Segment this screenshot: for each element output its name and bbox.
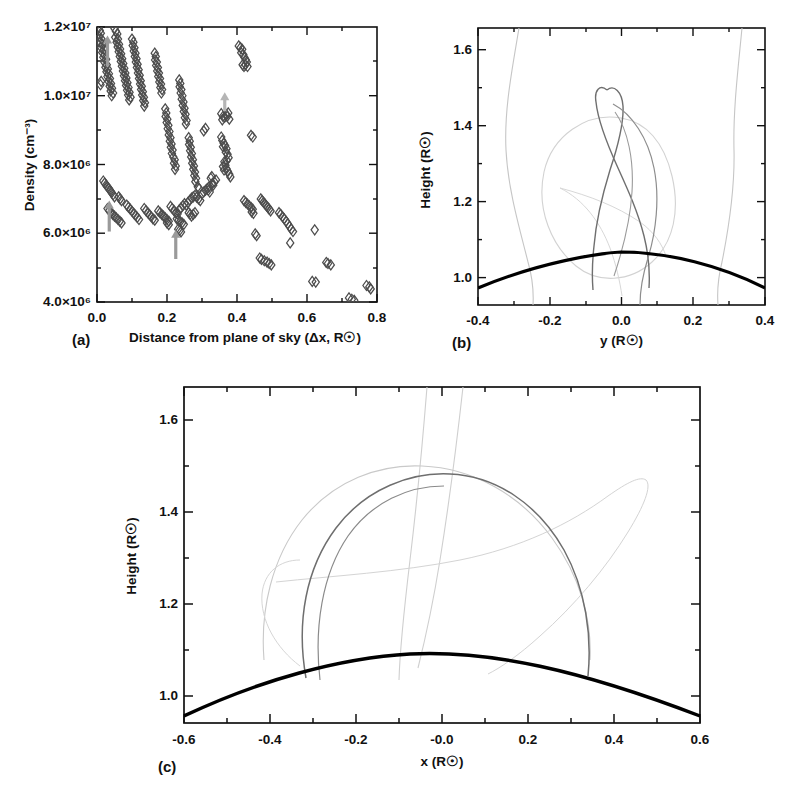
svg-text:1.6: 1.6 [159, 412, 178, 427]
ytick-b-1: 1.2 [453, 193, 472, 208]
xtick-c-4: 0.2 [519, 732, 538, 747]
xtick-a-3: 0.6 [298, 310, 317, 325]
panel-c: 1.0 1.2 1.4 1.6 -0.6 -0.4 -0.2 -0.0 0.2 … [100, 360, 740, 790]
loop-arcade-dark [302, 474, 589, 678]
xtick-c-0: -0.6 [172, 732, 196, 747]
fieldline-vertical-left [399, 387, 427, 680]
loop-arcade-dark-inner [318, 486, 444, 680]
panel-c-xticks [184, 387, 700, 723]
ytick-a-2: 8.0×10⁶ [43, 156, 91, 171]
fieldline-vertical-right [418, 387, 463, 668]
scatter-marker [252, 229, 259, 239]
ytick-a-1: 6.0×10⁶ [43, 225, 91, 240]
svg-text:0.4: 0.4 [605, 732, 624, 747]
panel-a-ylabel: Density (cm⁻³) [22, 119, 37, 212]
fieldline-outer-left [506, 28, 534, 305]
ytick-b-0: 1.0 [453, 269, 472, 284]
ytick-a-3: 1.0×10⁷ [44, 87, 91, 102]
svg-text:0.2: 0.2 [158, 310, 177, 325]
figure-root: 4.0×10⁶ 6.0×10⁶ 8.0×10⁶ 1.0×10⁷ 1.2×10⁷ … [0, 0, 786, 790]
xtick-c-2: -0.2 [344, 732, 367, 747]
solar-limb-b [478, 252, 765, 288]
loop-hook-left [262, 560, 300, 666]
panel-a: 4.0×10⁶ 6.0×10⁶ 8.0×10⁶ 1.0×10⁷ 1.2×10⁷ … [0, 0, 420, 360]
panel-b-xticklabels: -0.4 -0.2 0.0 0.2 0.4 [466, 313, 775, 328]
loop-arcade-wing [276, 479, 648, 674]
svg-text:1.4: 1.4 [453, 117, 472, 132]
panel-c-ylabel: Height (R☉) [124, 517, 139, 595]
panel-a-yticklabels: 4.0×10⁶ 6.0×10⁶ 8.0×10⁶ 1.0×10⁷ 1.2×10⁷ [43, 19, 91, 309]
svg-text:1.2: 1.2 [453, 193, 472, 208]
panel-a-xticklabels: 0.0 0.2 0.4 0.6 0.8 [88, 310, 387, 325]
svg-text:1.4: 1.4 [159, 504, 178, 519]
panel-b-yticklabels: 1.0 1.2 1.4 1.6 [453, 41, 472, 284]
panel-a-scatter-points [95, 23, 374, 305]
svg-text:-0.2: -0.2 [344, 732, 367, 747]
svg-text:-0.6: -0.6 [172, 732, 196, 747]
xtick-b-4: 0.4 [756, 313, 775, 328]
svg-text:1.2: 1.2 [159, 596, 178, 611]
arrow-mid-upper-head [220, 92, 229, 100]
ytick-b-2: 1.4 [453, 117, 472, 132]
panel-b-canvas: 1.0 1.2 1.4 1.6 -0.4 -0.2 0.0 0.2 0.4 He… [400, 0, 786, 360]
panel-c-xlabel: x (R☉) [421, 754, 464, 769]
ytick-c-0: 1.0 [159, 688, 178, 703]
xtick-b-1: -0.2 [538, 313, 561, 328]
panel-b-xlabel: y (R☉) [600, 333, 643, 348]
xtick-c-3: -0.0 [430, 732, 453, 747]
xtick-b-0: -0.4 [466, 313, 490, 328]
fieldline-chord-2 [560, 188, 622, 296]
xtick-b-3: 0.2 [684, 313, 703, 328]
panel-b-label: (b) [452, 334, 471, 351]
panel-c-yticklabels: 1.0 1.2 1.4 1.6 [159, 412, 178, 703]
svg-text:4.0×10⁶: 4.0×10⁶ [43, 294, 91, 309]
svg-text:8.0×10⁶: 8.0×10⁶ [43, 156, 91, 171]
scatter-marker [311, 225, 318, 235]
xtick-b-2: 0.0 [612, 313, 631, 328]
xtick-c-6: 0.6 [691, 732, 710, 747]
panel-c-frame [184, 387, 700, 723]
svg-text:0.0: 0.0 [88, 310, 107, 325]
svg-text:1.6: 1.6 [453, 41, 472, 56]
panel-b-yticks [478, 50, 765, 278]
panel-a-xlabel: Distance from plane of sky (Δx, R☉) [129, 330, 361, 345]
panel-c-label: (c) [158, 758, 176, 775]
xtick-c-5: 0.4 [605, 732, 624, 747]
ytick-c-2: 1.4 [159, 504, 178, 519]
ytick-c-1: 1.2 [159, 596, 178, 611]
svg-text:0.2: 0.2 [519, 732, 538, 747]
svg-text:0.8: 0.8 [368, 310, 387, 325]
svg-text:0.6: 0.6 [298, 310, 317, 325]
panel-b-ylabel: Height (R☉) [418, 131, 433, 209]
solar-limb-c [184, 654, 700, 716]
svg-text:-0.4: -0.4 [466, 313, 490, 328]
svg-text:1.0: 1.0 [453, 269, 472, 284]
svg-text:1.0×10⁷: 1.0×10⁷ [44, 87, 91, 102]
svg-text:0.4: 0.4 [756, 313, 775, 328]
svg-text:0.6: 0.6 [691, 732, 710, 747]
svg-text:-0.0: -0.0 [430, 732, 453, 747]
svg-text:-0.2: -0.2 [538, 313, 561, 328]
ytick-a-0: 4.0×10⁶ [43, 294, 91, 309]
svg-text:0.4: 0.4 [228, 310, 247, 325]
svg-text:1.0: 1.0 [159, 688, 178, 703]
svg-text:6.0×10⁶: 6.0×10⁶ [43, 225, 91, 240]
fieldline-outer-right [718, 28, 742, 305]
scatter-marker [287, 238, 294, 248]
panel-c-xticklabels: -0.6 -0.4 -0.2 -0.0 0.2 0.4 0.6 [172, 732, 710, 747]
panel-c-canvas: 1.0 1.2 1.4 1.6 -0.6 -0.4 -0.2 -0.0 0.2 … [100, 360, 740, 790]
panel-a-label: (a) [72, 331, 90, 348]
panel-a-canvas: 4.0×10⁶ 6.0×10⁶ 8.0×10⁶ 1.0×10⁷ 1.2×10⁷ … [0, 0, 420, 360]
svg-text:0.0: 0.0 [612, 313, 631, 328]
panel-c-fieldlines [262, 387, 648, 680]
svg-text:-0.4: -0.4 [258, 732, 282, 747]
panel-b: 1.0 1.2 1.4 1.6 -0.4 -0.2 0.0 0.2 0.4 He… [400, 0, 786, 360]
ytick-b-3: 1.6 [453, 41, 472, 56]
ytick-c-3: 1.6 [159, 412, 178, 427]
xtick-a-2: 0.4 [228, 310, 247, 325]
ytick-a-4: 1.2×10⁷ [44, 19, 91, 34]
svg-text:0.2: 0.2 [684, 313, 703, 328]
scatter-marker [253, 231, 260, 241]
xtick-c-1: -0.4 [258, 732, 282, 747]
xtick-a-1: 0.2 [158, 310, 177, 325]
